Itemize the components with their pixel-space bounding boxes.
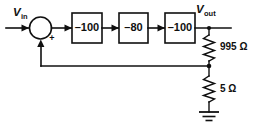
ground-symbol <box>199 112 219 121</box>
output-label-subscript: out <box>204 9 216 18</box>
sum-to-block1-arrowhead-icon <box>65 24 73 31</box>
input-label: V in <box>13 6 28 21</box>
block2-to-block3-arrowhead-icon <box>158 24 166 31</box>
output-label: V out <box>196 3 216 18</box>
input-label-subscript: in <box>21 12 28 21</box>
resistor-995-zigzag <box>204 35 215 61</box>
block1-to-block2-arrowhead-icon <box>112 24 120 31</box>
block1-to-block2-wire-group <box>102 24 119 31</box>
resistor-5-label: 5 Ω <box>220 83 236 94</box>
gain-block-2-label: –80 <box>124 21 142 33</box>
summing-junction-plus-sign: + <box>49 33 54 43</box>
block2-to-block3-wire-group <box>148 24 165 31</box>
summing-junction <box>30 17 52 39</box>
resistor-995-symbol <box>204 28 215 66</box>
resistor-995-label: 995 Ω <box>220 41 247 52</box>
input-arrowhead-icon <box>22 24 30 31</box>
gain-block-3-label: –100 <box>168 21 192 33</box>
resistor-5-symbol <box>204 66 215 112</box>
feedback-arrowhead-icon <box>37 40 44 48</box>
input-wire-group <box>6 24 29 31</box>
sum-to-block1-wire-group <box>52 24 73 31</box>
resistor-5-zigzag <box>204 76 215 102</box>
gain-block-1-label: –100 <box>75 21 99 33</box>
circuit-svg: –100 –80 –100 V in V out + 995 Ω 5 Ω <box>0 0 257 133</box>
circuit-diagram: –100 –80 –100 V in V out + 995 Ω 5 Ω <box>0 0 257 133</box>
